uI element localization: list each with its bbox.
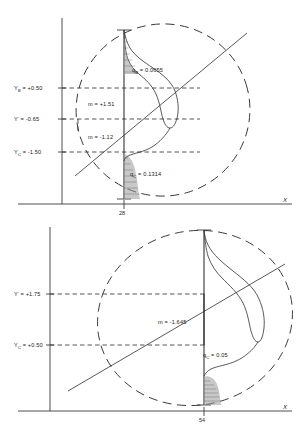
top-chart-figure: YB = +0.50 Y' = -0.65 YC = -1.50 m = +1.… bbox=[0, 0, 304, 220]
top-density-curve bbox=[124, 30, 178, 128]
bottom-lower-tail-shading bbox=[204, 376, 221, 405]
top-density-curve-lower-tail bbox=[124, 128, 170, 161]
bottom-chart-svg: Y' = +1.75 YC = +0.50 m = -1.645 qC = 0.… bbox=[0, 215, 304, 435]
bottom-density-curve-lower-tail bbox=[204, 342, 258, 376]
bottom-confidence-ellipse bbox=[80, 215, 304, 425]
top-label-slope-upper: m = +1.51 bbox=[88, 101, 115, 107]
top-label-yc: YC = -1.50 bbox=[14, 149, 41, 157]
bottom-chart-figure: Y' = +1.75 YC = +0.50 m = -1.645 qC = 0.… bbox=[0, 215, 304, 435]
bottom-density-curve bbox=[204, 230, 264, 342]
top-label-slope-lower: m = -1.12 bbox=[88, 134, 113, 140]
bottom-xtick-label: 54 bbox=[199, 417, 205, 423]
bottom-label-yc: YC = +0.50 bbox=[14, 342, 43, 350]
bottom-regression-line bbox=[68, 264, 285, 391]
bottom-label-yprime: Y' = +1.75 bbox=[14, 291, 41, 297]
bottom-label-slope: m = -1.645 bbox=[158, 319, 186, 325]
bottom-xaxis-label: X bbox=[282, 404, 288, 410]
top-label-yb: YB = +0.50 bbox=[14, 85, 43, 93]
top-xaxis-label: X bbox=[282, 197, 288, 203]
top-chart-svg: YB = +0.50 Y' = -0.65 YC = -1.50 m = +1.… bbox=[0, 0, 304, 220]
top-confidence-ellipse bbox=[55, 2, 272, 217]
top-label-qb: qB = 0.0655 bbox=[132, 67, 163, 75]
bottom-label-qc: qC = 0.05 bbox=[203, 352, 228, 360]
top-label-yprime: Y' = -0.65 bbox=[14, 116, 39, 122]
